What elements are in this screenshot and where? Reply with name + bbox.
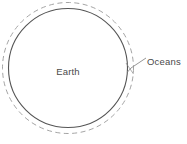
oceans-leader-line [128, 58, 147, 72]
earth-oceans-diagram: Earth Oceans [0, 0, 187, 144]
oceans-label: Oceans [147, 56, 181, 67]
diagram-canvas: Earth Oceans [0, 0, 187, 144]
earth-label: Earth [56, 66, 80, 77]
